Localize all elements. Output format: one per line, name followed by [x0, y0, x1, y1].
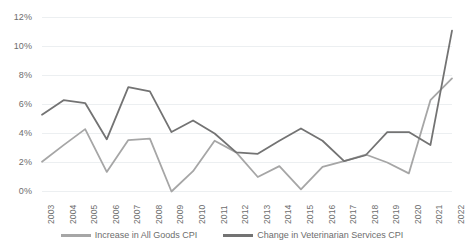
x-axis-tick-label: 2015 [305, 204, 315, 223]
x-axis-tick-label: 2019 [391, 204, 401, 223]
legend-swatch-icon [61, 234, 91, 237]
x-axis-tick-label: 2003 [46, 204, 56, 223]
x-axis-tick-label: 2011 [219, 205, 229, 224]
legend-label: Change in Veterinarian Services CPI [257, 230, 403, 240]
x-axis-tick-label: 2010 [197, 204, 207, 223]
x-axis-tick-label: 2014 [283, 204, 293, 223]
x-axis-tick-label: 2004 [68, 204, 78, 223]
x-axis-tick-label: 2007 [132, 204, 142, 223]
legend-label: Increase in All Goods CPI [95, 230, 198, 240]
x-axis-tick-label: 2008 [154, 204, 164, 223]
x-axis-tick-label: 2009 [175, 204, 185, 223]
series-lines [42, 31, 452, 192]
legend-item[interactable]: Change in Veterinarian Services CPI [223, 230, 403, 240]
x-axis-tick-label: 2013 [262, 204, 272, 223]
x-axis-tick-label: 2022 [456, 204, 466, 223]
series-line-vet-services-cpi [42, 31, 452, 162]
chart-legend: Increase in All Goods CPIChange in Veter… [0, 230, 464, 240]
x-axis-tick-label: 2020 [413, 204, 423, 223]
x-axis-tick-label: 2021 [434, 204, 444, 223]
x-axis-tick-label: 2006 [111, 204, 121, 223]
x-axis-tick-label: 2018 [370, 204, 380, 223]
legend-swatch-icon [223, 234, 253, 237]
x-axis-tick-label: 2016 [327, 204, 337, 223]
x-axis-tick-label: 2017 [348, 204, 358, 223]
x-axis-tick-label: 2005 [89, 204, 99, 223]
legend-item[interactable]: Increase in All Goods CPI [61, 230, 198, 240]
x-axis-tick-label: 2012 [240, 204, 250, 223]
